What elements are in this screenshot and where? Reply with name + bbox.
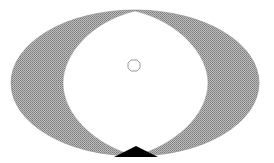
diagram-canvas [0,0,274,163]
